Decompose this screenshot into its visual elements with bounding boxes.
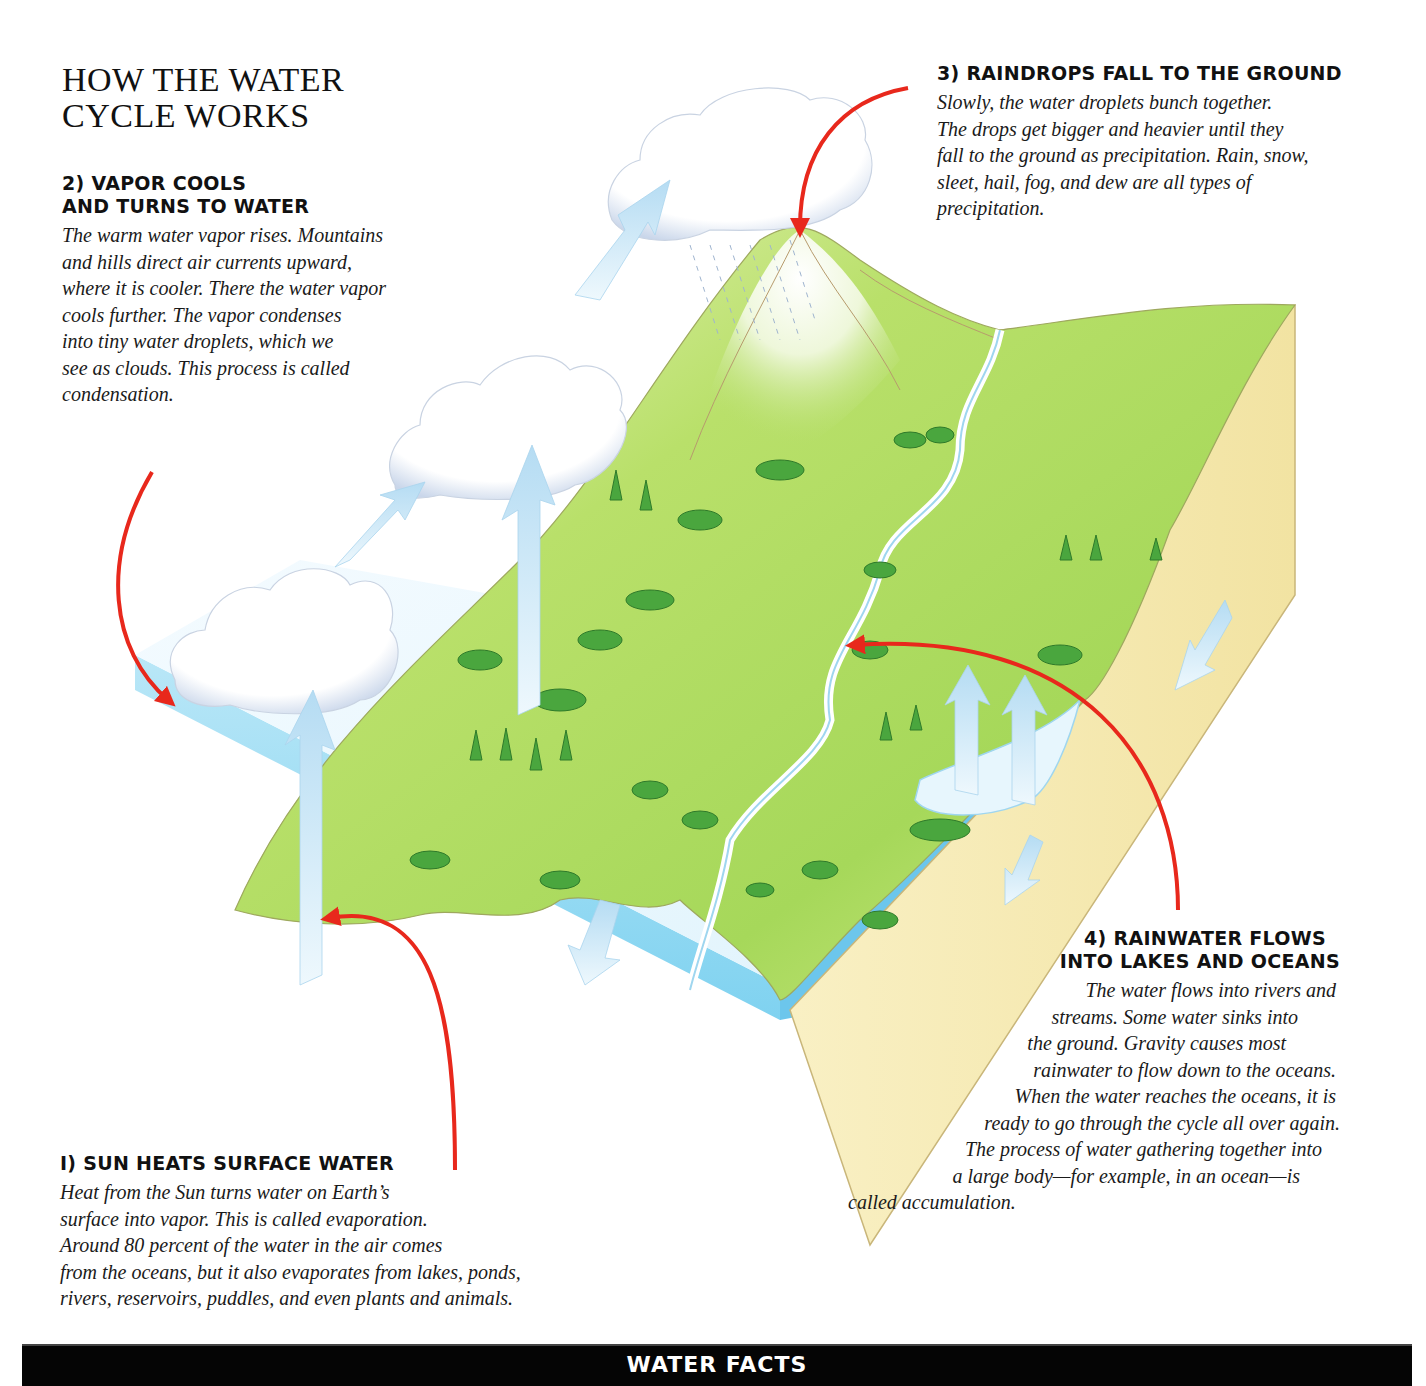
body-line: cools further. The vapor condenses <box>62 302 462 329</box>
step-1-heading: I) SUN HEATS SURFACE WATER <box>60 1152 620 1175</box>
body-line: where it is cooler. There the water vapo… <box>62 275 462 302</box>
body-line: a large body—for example, in an ocean—is <box>840 1163 1340 1190</box>
body-line: surface into vapor. This is called evapo… <box>60 1206 620 1233</box>
step-1-description: Heat from the Sun turns water on Earth’s… <box>60 1179 620 1312</box>
body-line: Around 80 percent of the water in the ai… <box>60 1232 620 1259</box>
body-line: The drops get bigger and heavier until t… <box>937 116 1397 143</box>
step-2-vapor-cools: 2) VAPOR COOLS AND TURNS TO WATER The wa… <box>62 172 462 408</box>
body-line: called accumulation. <box>840 1189 1340 1216</box>
step-2-heading-line: AND TURNS TO WATER <box>62 195 462 218</box>
title-line-1: HOW THE WATER <box>62 62 344 98</box>
body-line: The process of water gathering together … <box>840 1136 1340 1163</box>
step-3-raindrops-fall: 3) RAINDROPS FALL TO THE GROUND Slowly, … <box>937 62 1397 222</box>
step-4-heading: 4) RAINWATER FLOWS INTO LAKES AND OCEANS <box>840 927 1340 973</box>
body-line: The warm water vapor rises. Mountains <box>62 222 462 249</box>
water-facts-bar: WATER FACTS <box>22 1344 1412 1386</box>
body-line: Heat from the Sun turns water on Earth’s <box>60 1179 620 1206</box>
body-line: see as clouds. This process is called <box>62 355 462 382</box>
body-line: precipitation. <box>937 195 1397 222</box>
step-4-description: The water flows into rivers and streams.… <box>840 977 1340 1216</box>
body-line: the ground. Gravity causes most <box>840 1030 1340 1057</box>
body-line: When the water reaches the oceans, it is <box>840 1083 1340 1110</box>
body-line: rainwater to flow down to the oceans. <box>840 1057 1340 1084</box>
title-line-2: CYCLE WORKS <box>62 98 344 134</box>
step-1-sun-heats-water: I) SUN HEATS SURFACE WATER Heat from the… <box>60 1152 620 1312</box>
water-facts-heading: WATER FACTS <box>22 1352 1412 1377</box>
step-3-heading-line: 3) RAINDROPS FALL TO THE GROUND <box>937 62 1397 85</box>
cloud-low <box>170 569 398 714</box>
step-3-description: Slowly, the water droplets bunch togethe… <box>937 89 1397 222</box>
page-title: HOW THE WATER CYCLE WORKS <box>62 62 344 134</box>
body-line: and hills direct air currents upward, <box>62 249 462 276</box>
step-3-heading: 3) RAINDROPS FALL TO THE GROUND <box>937 62 1397 85</box>
red-arrow-step1 <box>330 916 455 1170</box>
step-2-heading-line: 2) VAPOR COOLS <box>62 172 462 195</box>
body-line: rivers, reservoirs, puddles, and even pl… <box>60 1285 620 1312</box>
step-2-description: The warm water vapor rises. Mountains an… <box>62 222 462 408</box>
step-2-heading: 2) VAPOR COOLS AND TURNS TO WATER <box>62 172 462 218</box>
body-line: Slowly, the water droplets bunch togethe… <box>937 89 1397 116</box>
body-line: fall to the ground as precipitation. Rai… <box>937 142 1397 169</box>
step-4-rainwater-flows: 4) RAINWATER FLOWS INTO LAKES AND OCEANS… <box>840 927 1340 1216</box>
step-1-heading-line: I) SUN HEATS SURFACE WATER <box>60 1152 620 1175</box>
step-4-heading-line: INTO LAKES AND OCEANS <box>840 950 1340 973</box>
body-line: from the oceans, but it also evaporates … <box>60 1259 620 1286</box>
vapor-arrow-cloud-to-cloud <box>335 482 425 567</box>
body-line: condensation. <box>62 381 462 408</box>
step-4-heading-line: 4) RAINWATER FLOWS <box>840 927 1326 950</box>
body-line: ready to go through the cycle all over a… <box>840 1110 1340 1137</box>
body-line: The water flows into rivers and <box>840 977 1340 1004</box>
body-line: into tiny water droplets, which we <box>62 328 462 355</box>
body-line: sleet, hail, fog, and dew are all types … <box>937 169 1397 196</box>
body-line: streams. Some water sinks into <box>840 1004 1340 1031</box>
